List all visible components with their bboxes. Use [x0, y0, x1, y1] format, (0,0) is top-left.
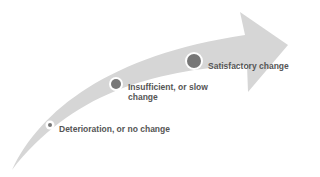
- stage-marker-satisfactory: [185, 52, 203, 70]
- stage-marker-insufficient: [109, 77, 123, 91]
- stage-marker-deterioration: [46, 121, 55, 130]
- stage-label-insufficient: Insufficient, or slow change: [128, 82, 208, 102]
- stage-label-insufficient-line1: Insufficient, or slow: [128, 82, 208, 92]
- stage-label-deterioration: Deterioration, or no change: [59, 124, 170, 134]
- stage-label-insufficient-line2: change: [128, 92, 208, 102]
- stage-label-satisfactory: Satisfactory change: [208, 61, 289, 71]
